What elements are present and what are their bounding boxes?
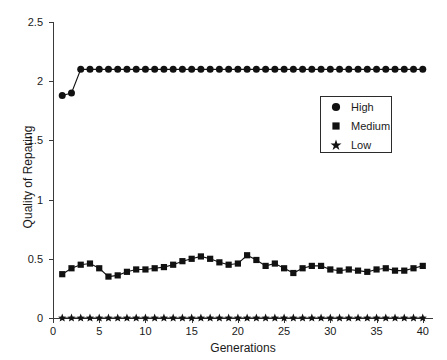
- data-point-square: [189, 256, 195, 262]
- data-point-star: [206, 314, 214, 322]
- data-point-square: [383, 265, 389, 271]
- data-point-circle: [318, 66, 325, 73]
- data-point-star: [335, 314, 343, 322]
- data-point-star: [308, 314, 316, 322]
- star-marker-icon: [329, 138, 343, 152]
- data-point-square: [410, 265, 416, 271]
- series-canvas: [0, 0, 447, 360]
- data-point-square: [336, 268, 342, 274]
- data-point-star: [252, 314, 260, 322]
- data-point-circle: [123, 66, 130, 73]
- data-point-circle: [299, 66, 306, 73]
- data-point-square: [253, 257, 259, 263]
- chart-figure: 00.511.522.50510152025303540 Quality of …: [0, 0, 447, 360]
- data-point-circle: [253, 66, 260, 73]
- data-point-square: [244, 252, 250, 258]
- data-point-star: [169, 314, 177, 322]
- data-point-circle: [86, 66, 93, 73]
- data-point-square: [78, 262, 84, 268]
- data-point-circle: [262, 66, 269, 73]
- data-point-square: [198, 253, 204, 259]
- data-point-square: [152, 265, 158, 271]
- data-point-square: [133, 266, 139, 272]
- legend-label-low: Low: [351, 139, 371, 151]
- data-point-star: [400, 314, 408, 322]
- data-point-square: [105, 273, 111, 279]
- legend-label-high: High: [351, 101, 374, 113]
- data-point-square: [59, 271, 65, 277]
- data-point-circle: [170, 66, 177, 73]
- data-point-circle: [244, 66, 251, 73]
- data-point-circle: [151, 66, 158, 73]
- data-point-star: [224, 314, 232, 322]
- data-point-circle: [308, 66, 315, 73]
- series-high: [59, 66, 427, 99]
- data-point-star: [132, 314, 140, 322]
- data-point-circle: [160, 66, 167, 73]
- data-point-square: [327, 266, 333, 272]
- data-point-star: [197, 314, 205, 322]
- data-point-square: [364, 269, 370, 275]
- data-point-square: [207, 256, 213, 262]
- data-point-circle: [197, 66, 204, 73]
- data-point-circle: [281, 66, 288, 73]
- data-point-circle: [336, 66, 343, 73]
- data-point-star: [354, 314, 362, 322]
- data-point-circle: [216, 66, 223, 73]
- data-point-circle: [419, 66, 426, 73]
- data-point-circle: [373, 66, 380, 73]
- data-point-square: [216, 259, 222, 265]
- data-point-star: [215, 314, 223, 322]
- data-point-circle: [179, 66, 186, 73]
- data-point-square: [401, 268, 407, 274]
- data-point-circle: [142, 66, 149, 73]
- data-point-square: [290, 270, 296, 276]
- data-point-circle: [68, 90, 75, 97]
- data-point-square: [392, 268, 398, 274]
- data-point-square: [272, 260, 278, 266]
- data-point-star: [372, 314, 380, 322]
- data-point-circle: [234, 66, 241, 73]
- data-point-circle: [401, 66, 408, 73]
- data-point-circle: [59, 92, 66, 99]
- data-point-circle: [271, 66, 278, 73]
- data-point-square: [96, 265, 102, 271]
- square-marker-icon: [329, 119, 343, 133]
- data-point-circle: [410, 66, 417, 73]
- data-point-star: [187, 314, 195, 322]
- data-point-circle: [96, 66, 103, 73]
- legend-label-medium: Medium: [351, 120, 390, 132]
- data-point-square: [142, 266, 148, 272]
- data-point-circle: [133, 66, 140, 73]
- data-point-star: [243, 314, 251, 322]
- data-point-square: [161, 264, 167, 270]
- data-point-circle: [114, 66, 121, 73]
- data-point-star: [298, 314, 306, 322]
- data-point-star: [289, 314, 297, 322]
- legend-entry-medium: Medium: [321, 116, 391, 135]
- data-point-star: [261, 314, 269, 322]
- data-point-square: [87, 260, 93, 266]
- data-point-square: [309, 263, 315, 269]
- data-point-square: [373, 266, 379, 272]
- circle-marker-icon: [329, 100, 343, 114]
- data-point-circle: [392, 66, 399, 73]
- data-point-star: [151, 314, 159, 322]
- data-point-circle: [105, 66, 112, 73]
- data-point-square: [420, 263, 426, 269]
- data-point-circle: [188, 66, 195, 73]
- data-point-square: [346, 266, 352, 272]
- data-point-star: [95, 314, 103, 322]
- data-point-star: [382, 314, 390, 322]
- data-point-star: [178, 314, 186, 322]
- data-point-star: [409, 314, 417, 322]
- data-point-star: [77, 314, 85, 322]
- data-point-square: [299, 265, 305, 271]
- legend-entry-high: High: [321, 97, 391, 116]
- data-point-star: [141, 314, 149, 322]
- data-point-star: [104, 314, 112, 322]
- data-point-square: [318, 263, 324, 269]
- data-point-star: [86, 314, 94, 322]
- data-point-star: [58, 314, 66, 322]
- data-point-square: [179, 258, 185, 264]
